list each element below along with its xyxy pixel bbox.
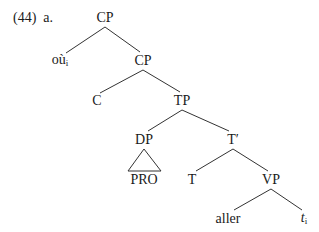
node-dp: DP bbox=[135, 133, 153, 147]
branch-cp-c bbox=[100, 70, 143, 93]
node-aller: aller bbox=[216, 212, 241, 226]
node-tp: TP bbox=[174, 94, 190, 108]
node-ou-index: i bbox=[66, 58, 69, 68]
example-label: (44) a. bbox=[13, 11, 53, 25]
triangle-dp-pro bbox=[128, 149, 161, 171]
node-pro: PRO bbox=[130, 173, 157, 187]
branch-vp-trace bbox=[271, 189, 302, 210]
example-number: (44) bbox=[13, 10, 36, 25]
branch-cp-tp bbox=[143, 70, 180, 92]
branch-tbar-t bbox=[196, 149, 233, 171]
branch-tp-dp bbox=[148, 110, 182, 131]
node-cp-top: CP bbox=[96, 11, 113, 25]
node-tbar: T′ bbox=[227, 133, 239, 147]
node-cp-mid: CP bbox=[134, 54, 151, 68]
branch-cp-cp bbox=[105, 27, 140, 52]
tree-branches bbox=[0, 0, 319, 232]
branch-cp-ou bbox=[66, 27, 105, 53]
node-t: T bbox=[188, 173, 197, 187]
node-trace-index: i bbox=[305, 216, 308, 226]
node-ou-label: où bbox=[52, 52, 66, 67]
branch-tbar-vp bbox=[233, 149, 268, 171]
example-letter: a. bbox=[43, 10, 53, 25]
node-c: C bbox=[92, 94, 101, 108]
node-ou: oùi bbox=[52, 53, 69, 70]
node-trace: ti bbox=[301, 211, 307, 228]
branch-vp-aller bbox=[234, 189, 271, 210]
branch-tp-tbar bbox=[182, 110, 229, 131]
node-vp: VP bbox=[262, 173, 280, 187]
